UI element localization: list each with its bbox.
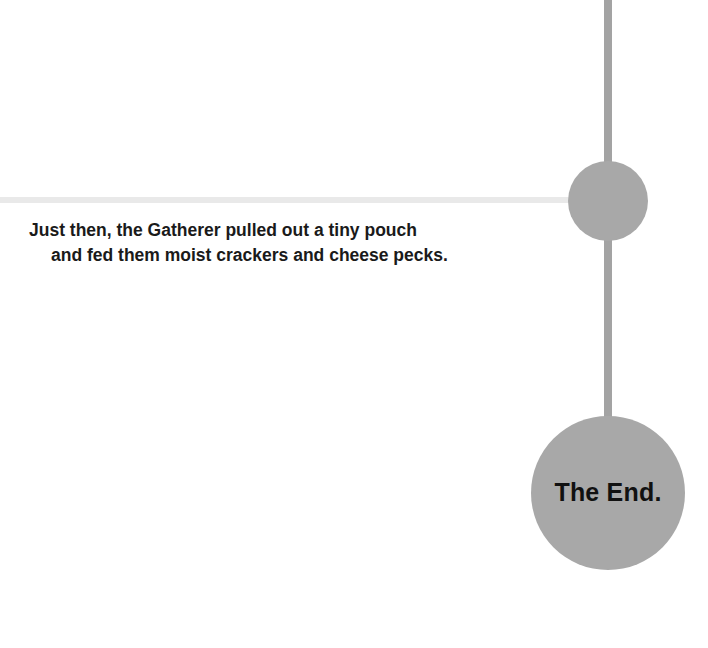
story-page: The End. Just then, the Gatherer pulled …: [0, 0, 708, 648]
story-node-marker: [568, 161, 648, 241]
story-node-end: The End.: [531, 416, 685, 570]
caption-line-1: Just then, the Gatherer pulled out a tin…: [29, 220, 417, 240]
caption-line-2: and fed them moist crackers and cheese p…: [29, 243, 499, 268]
story-caption: Just then, the Gatherer pulled out a tin…: [29, 218, 499, 269]
horizontal-connector-line: [0, 197, 608, 203]
end-node-label: The End.: [554, 480, 661, 505]
